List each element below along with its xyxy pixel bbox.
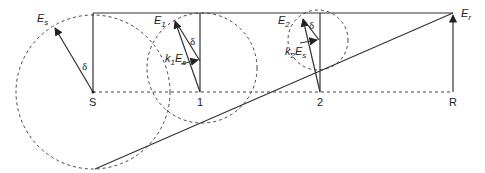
label-k1Es: k1Es — [165, 52, 186, 67]
node-label-R: R — [449, 96, 457, 108]
node-label-2: 2 — [317, 96, 323, 108]
delta-S: δ — [82, 60, 87, 72]
node-S-dot — [92, 91, 95, 94]
node-label-S: S — [89, 96, 96, 108]
delta-1: δ — [190, 35, 195, 47]
node2-locus-circle — [288, 10, 348, 70]
node-label-1: 1 — [197, 96, 203, 108]
diagonal-line — [95, 13, 453, 169]
label-Es: Es — [37, 12, 48, 27]
label-E1: E1 — [154, 14, 166, 29]
label-Er: Er — [461, 7, 471, 22]
delta-2: δ — [309, 19, 314, 31]
label-k2Es: k2Es — [285, 45, 306, 60]
phasor-diagram: Es E1 E2 Er k1Es k2Es δ δ δ S 1 2 R — [0, 0, 485, 173]
phasor-Es — [55, 28, 93, 92]
label-E2: E2 — [278, 14, 290, 29]
